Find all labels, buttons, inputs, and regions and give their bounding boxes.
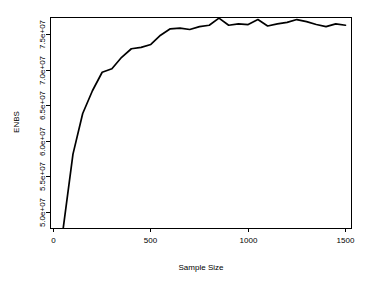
- x-tick-label: 0: [51, 236, 56, 245]
- y-tick-label: 7.5e+07: [38, 19, 47, 49]
- x-axis-title: Sample Size: [179, 263, 224, 272]
- y-tick-label: 5.0e+07: [38, 197, 47, 227]
- chart-canvas: 0 500 1000 1500 5.0e+07 5.5e+07 6.0e+07 …: [0, 0, 368, 286]
- enbs-vs-sample-size-line-chart: 0 500 1000 1500 5.0e+07 5.5e+07 6.0e+07 …: [0, 0, 368, 286]
- x-tick-label: 1500: [337, 236, 355, 245]
- y-tick-label: 5.5e+07: [38, 161, 47, 191]
- y-tick-label: 7.0e+07: [38, 55, 47, 85]
- y-tick-label: 6.0e+07: [38, 126, 47, 156]
- y-axis-title: ENBS: [12, 111, 21, 133]
- y-tick-label: 6.5e+07: [38, 90, 47, 120]
- x-tick-label: 1000: [240, 236, 258, 245]
- x-tick-label: 500: [144, 236, 158, 245]
